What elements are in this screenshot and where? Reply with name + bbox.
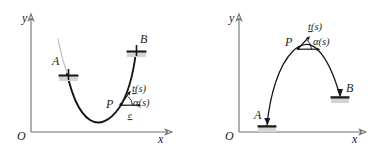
basis-vector-label-group: e xyxy=(128,110,133,120)
basis-vector-label: e xyxy=(128,110,132,120)
cable-curve-extension xyxy=(58,39,67,73)
point-label-a: A xyxy=(253,108,262,122)
tangent-vector-label-group: t(s) xyxy=(308,21,323,33)
support-marker-b xyxy=(127,45,147,57)
tangent-vector-label-group: t(s) xyxy=(132,83,147,95)
x-axis-label: x xyxy=(157,132,164,146)
origin-label: O xyxy=(17,129,26,143)
x-axis-label: x xyxy=(351,132,358,146)
angle-arc xyxy=(128,97,132,106)
point-label-p: P xyxy=(105,97,114,111)
point-label-p: P xyxy=(284,35,293,49)
arch-curve xyxy=(267,44,340,125)
point-label-b: B xyxy=(140,32,148,46)
origin-label: O xyxy=(225,129,234,143)
figure-sheet: y x O A B P t(s) α(s) e xyxy=(0,0,388,151)
x-axis xyxy=(31,129,172,134)
y-axis-label: y xyxy=(228,11,235,25)
point-label-b: B xyxy=(346,81,354,95)
support-marker-a xyxy=(59,69,79,81)
horizontal-reference-arrow xyxy=(298,47,320,51)
y-axis-label: y xyxy=(21,11,28,25)
hanging-cable-panel: y x O A B P t(s) α(s) e xyxy=(0,0,194,151)
y-axis xyxy=(28,14,33,132)
angle-label: α(s) xyxy=(313,36,330,48)
tangent-vector-arrow xyxy=(298,36,310,49)
cable-curve xyxy=(67,52,136,123)
angle-label: α(s) xyxy=(133,97,150,109)
point-label-a: A xyxy=(51,54,60,68)
arch-panel: y x O A B P t(s) α(s) xyxy=(194,0,388,151)
y-axis xyxy=(236,14,241,132)
